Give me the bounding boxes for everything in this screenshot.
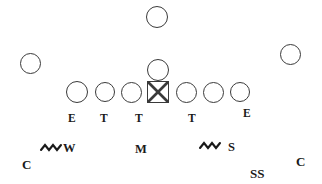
player-marker-center <box>147 81 169 103</box>
secondary-label-ss-1: SS <box>250 167 264 180</box>
defensive-formation-diagram: ETTTEWMSCSSC <box>0 0 322 184</box>
center-x-icon <box>148 82 168 102</box>
linebacker-label-s: S <box>228 141 235 154</box>
blitz-squiggle-icon-w <box>40 143 64 155</box>
player-marker-line-6 <box>203 82 224 103</box>
dline-position-label-1: T <box>100 113 108 125</box>
player-marker-line-7 <box>230 82 250 102</box>
dline-position-label-3: T <box>188 113 196 125</box>
player-marker-quarterback <box>147 59 169 81</box>
player-marker-line-2 <box>95 82 115 102</box>
player-marker-deep-back <box>146 6 168 28</box>
player-marker-left-wide <box>20 53 41 74</box>
player-marker-line-5 <box>176 82 197 103</box>
linebacker-label-w: W <box>63 142 76 155</box>
dline-position-label-2: T <box>135 113 143 125</box>
player-marker-right-wide <box>280 44 301 65</box>
secondary-label-c-0: C <box>22 158 31 171</box>
dline-position-label-4: E <box>243 108 251 120</box>
blitz-squiggle-icon-s <box>199 141 223 153</box>
player-marker-line-1 <box>66 81 88 103</box>
dline-position-label-0: E <box>68 113 76 125</box>
linebacker-label-m: M <box>135 143 147 156</box>
player-marker-line-3 <box>121 82 142 103</box>
secondary-label-c-2: C <box>296 155 305 168</box>
